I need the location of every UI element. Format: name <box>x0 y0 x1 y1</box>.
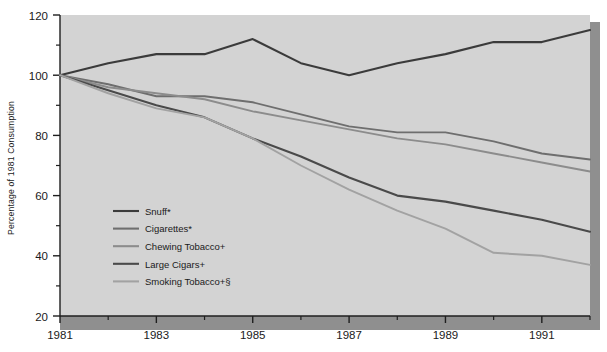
x-tick-label: 1985 <box>240 329 266 341</box>
plot-area-background <box>60 15 590 316</box>
y-tick-label: 20 <box>35 311 48 323</box>
x-axis-tick-labels: 198119831985198719891991 <box>47 329 554 341</box>
y-tick-label: 60 <box>35 190 48 202</box>
y-axis-tick-labels: 20406080100120 <box>29 10 48 323</box>
plot-shadow-right <box>590 22 600 330</box>
x-tick-label: 1983 <box>144 329 170 341</box>
legend-label-1: Cigarettes* <box>145 223 192 234</box>
x-tick-label: 1987 <box>336 329 362 341</box>
legend-label-4: Smoking Tobacco+§ <box>145 276 231 287</box>
y-tick-label: 120 <box>29 10 48 22</box>
x-tick-label: 1991 <box>529 329 555 341</box>
chart-figure: 20406080100120 198119831985198719891991 … <box>0 0 607 352</box>
y-tick-label: 80 <box>35 130 48 142</box>
line-chart: 20406080100120 198119831985198719891991 … <box>0 0 607 352</box>
plot-shadow-bottom <box>60 316 600 330</box>
x-tick-label: 1981 <box>47 329 73 341</box>
legend-label-2: Chewing Tobacco+ <box>145 241 226 252</box>
y-tick-label: 40 <box>35 250 48 262</box>
x-tick-label: 1989 <box>433 329 459 341</box>
legend-label-3: Large Cigars+ <box>145 259 205 270</box>
y-tick-label: 100 <box>29 70 48 82</box>
legend-label-0: Snuff* <box>145 206 171 217</box>
y-axis-title: Percentage of 1981 Consumption <box>6 101 16 235</box>
